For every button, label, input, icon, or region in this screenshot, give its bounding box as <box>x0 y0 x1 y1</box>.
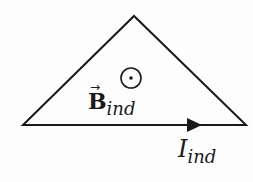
vector-arrow-icon: → <box>90 81 100 93</box>
induced-current-label: Iind <box>178 137 216 161</box>
field-out-of-page-icon <box>121 68 141 88</box>
induced-field-label: →Bind <box>88 90 135 112</box>
current-subscript: ind <box>187 146 216 167</box>
current-arrowhead-icon <box>187 118 202 132</box>
field-symbol-B: →B <box>88 90 107 112</box>
diagram-canvas: →Bind Iind <box>0 0 253 182</box>
field-subscript: ind <box>107 98 136 119</box>
